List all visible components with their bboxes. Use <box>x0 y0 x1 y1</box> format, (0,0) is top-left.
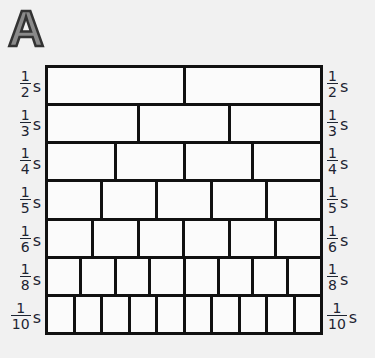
fraction-cell <box>137 106 229 141</box>
fraction-cell <box>238 297 266 332</box>
fraction-cell <box>100 182 155 217</box>
fraction-row-2 <box>48 103 320 141</box>
fraction-row-5 <box>48 218 320 256</box>
fraction-cell <box>183 68 321 103</box>
fraction-cell <box>155 297 183 332</box>
denominator: 10 <box>11 315 31 331</box>
left-label-row-2: 13s <box>0 104 44 143</box>
denominator: 2 <box>327 83 338 99</box>
fraction-row-4 <box>48 179 320 217</box>
panel-letter: A <box>8 4 44 54</box>
unit-label: s <box>340 154 348 173</box>
right-label-row-1: 12s <box>327 65 371 104</box>
fraction: 13 <box>327 108 338 138</box>
fraction-cell <box>183 297 211 332</box>
unit-label: s <box>33 193 41 212</box>
fraction-cell <box>48 106 137 141</box>
numerator: 1 <box>331 301 342 315</box>
fraction-row-6 <box>48 256 320 294</box>
fraction-cell <box>228 106 320 141</box>
denominator: 6 <box>327 238 338 254</box>
denominator: 4 <box>327 160 338 176</box>
fraction-cell <box>155 182 210 217</box>
fraction-row-1 <box>48 68 320 103</box>
right-labels: 12s13s14s15s16s18s110s <box>327 65 371 335</box>
fraction-cell <box>73 297 101 332</box>
denominator: 5 <box>327 199 338 215</box>
fraction-cell <box>48 259 79 294</box>
numerator: 1 <box>327 185 338 199</box>
fraction: 12 <box>327 69 338 99</box>
numerator: 1 <box>327 69 338 83</box>
fraction-cell <box>114 259 148 294</box>
fraction: 13 <box>20 108 31 138</box>
fraction: 16 <box>327 224 338 254</box>
numerator: 1 <box>20 224 31 238</box>
fraction-cell <box>100 297 128 332</box>
unit-label: s <box>33 115 41 134</box>
right-label-row-6: 18s <box>327 258 371 297</box>
unit-label: s <box>340 231 348 250</box>
numerator: 1 <box>20 69 31 83</box>
fraction-cell <box>79 259 113 294</box>
fraction-cell <box>48 297 73 332</box>
denominator: 8 <box>20 276 31 292</box>
fraction-cell <box>286 259 320 294</box>
fraction-cell <box>114 144 183 179</box>
fraction-row-7 <box>48 294 320 332</box>
fraction-wall <box>45 65 323 335</box>
unit-label: s <box>340 193 348 212</box>
fraction-cell <box>182 221 228 256</box>
fraction: 14 <box>327 146 338 176</box>
fraction-cell <box>128 297 156 332</box>
unit-label: s <box>33 308 41 327</box>
unit-label: s <box>33 231 41 250</box>
left-label-row-4: 15s <box>0 181 44 220</box>
fraction: 15 <box>20 185 31 215</box>
fraction-cell <box>265 182 320 217</box>
denominator: 6 <box>20 238 31 254</box>
unit-label: s <box>340 115 348 134</box>
fraction: 18 <box>327 262 338 292</box>
unit-label: s <box>340 77 348 96</box>
fraction-cell <box>228 221 274 256</box>
fraction: 110 <box>327 301 347 331</box>
denominator: 3 <box>20 122 31 138</box>
unit-label: s <box>33 77 41 96</box>
numerator: 1 <box>327 146 338 160</box>
right-label-row-4: 15s <box>327 181 371 220</box>
numerator: 1 <box>327 262 338 276</box>
denominator: 5 <box>20 199 31 215</box>
denominator: 4 <box>20 160 31 176</box>
fraction-cell <box>274 221 320 256</box>
fraction-cell <box>293 297 321 332</box>
numerator: 1 <box>20 185 31 199</box>
right-label-row-3: 14s <box>327 142 371 181</box>
fraction-cell <box>91 221 137 256</box>
fraction: 110 <box>11 301 31 331</box>
left-label-row-7: 110s <box>0 296 44 335</box>
numerator: 1 <box>20 108 31 122</box>
numerator: 1 <box>327 224 338 238</box>
unit-label: s <box>33 154 41 173</box>
fraction-cell <box>183 259 217 294</box>
numerator: 1 <box>20 262 31 276</box>
unit-label: s <box>349 308 357 327</box>
denominator: 3 <box>327 122 338 138</box>
fraction-cell <box>217 259 251 294</box>
fraction-cell <box>48 144 114 179</box>
fraction: 12 <box>20 69 31 99</box>
denominator: 2 <box>20 83 31 99</box>
unit-label: s <box>33 270 41 289</box>
fraction-cell <box>210 182 265 217</box>
fraction: 15 <box>327 185 338 215</box>
fraction: 16 <box>20 224 31 254</box>
fraction-cell <box>48 221 91 256</box>
fraction: 18 <box>20 262 31 292</box>
fraction-cell <box>48 182 100 217</box>
fraction-cell <box>137 221 183 256</box>
denominator: 8 <box>327 276 338 292</box>
numerator: 1 <box>15 301 26 315</box>
right-label-row-7: 110s <box>327 296 371 335</box>
left-label-row-6: 18s <box>0 258 44 297</box>
